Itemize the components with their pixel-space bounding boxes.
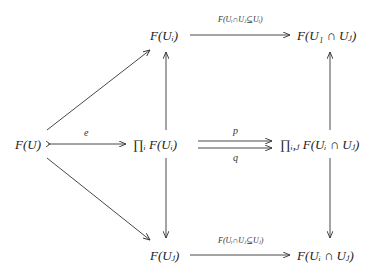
node-FUiUj: F(Uᵢ ∩ Uⱼ) bbox=[297, 249, 354, 262]
label-restriction-j: F(Uᵢ∩Uⱼ⊆Uⱼ) bbox=[218, 237, 264, 245]
label-p: p bbox=[233, 126, 238, 136]
label-q: q bbox=[233, 153, 238, 163]
arrow-FU-to-FUj bbox=[47, 158, 150, 240]
node-FU: F(U) bbox=[15, 138, 41, 151]
arrow-FU-to-FUi bbox=[47, 50, 150, 130]
node-prod-FUi: ∏ᵢ F(Uᵢ) bbox=[133, 138, 177, 151]
label-e: e bbox=[84, 128, 88, 138]
node-FU1Uj: F(U₁ ∩ Uⱼ) bbox=[297, 29, 356, 42]
node-prod-FUij: ∏ᵢ,ⱼ F(Uᵢ ∩ Uⱼ) bbox=[280, 138, 359, 151]
node-FUi: F(Uᵢ) bbox=[150, 29, 178, 42]
node-FUj: F(Uⱼ) bbox=[150, 249, 179, 262]
label-restriction-i: F(Uᵢ∩Uⱼ⊆Uᵢ) bbox=[218, 16, 263, 24]
